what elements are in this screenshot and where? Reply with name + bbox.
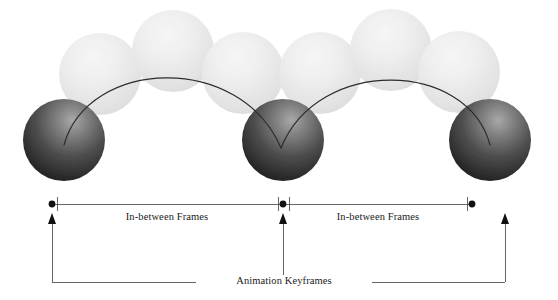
diagram-canvas: In-between Frames In-between Frames Anim… [0,0,558,300]
keyframe-arrowhead-right [501,213,509,224]
keyframe-marker-dot-3 [469,201,476,208]
animation-keyframes-label: Animation Keyframes [230,275,338,286]
annotation-layer [0,0,558,300]
keyframe-arrowhead-left [48,213,56,224]
keyframe-marker-dot-1 [49,201,56,208]
inbetween-frames-label-left: In-between Frames [126,211,208,222]
keyframe-arrowhead-mid [279,213,287,224]
inbetween-frames-label-right: In-between Frames [337,211,419,222]
keyframe-marker-dot-2 [280,201,287,208]
